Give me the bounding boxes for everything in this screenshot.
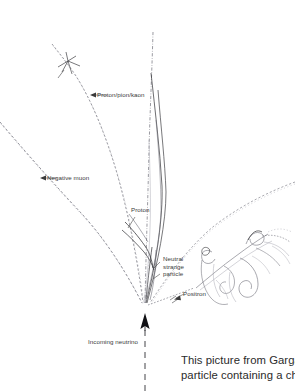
caption-line-1: This picture from Gargan — [181, 353, 295, 368]
bubble-chamber-event-figure — [0, 0, 295, 391]
caption-line-2: particle containing a cha — [181, 368, 295, 383]
label-neutral-strange-line3: particle — [163, 270, 183, 277]
label-neutral-strange-line2: strange — [163, 263, 184, 270]
label-negative-muon: Negative muon — [47, 174, 89, 182]
track-negative-muon — [0, 122, 143, 304]
label-neutral-strange-line1: Neutral — [163, 255, 183, 262]
label-proton: Proton — [131, 206, 150, 214]
label-positron: Positron — [183, 290, 206, 298]
label-neutral-strange-particle: Neutral strange particle — [163, 255, 205, 278]
incoming-neutrino-beam — [140, 313, 149, 391]
figure-caption: This picture from Gargan particle contai… — [181, 353, 295, 391]
track-upper-right-outgoing — [150, 182, 295, 304]
star-vertex-burst — [58, 52, 80, 78]
label-incoming-neutrino: Incoming neutrino — [88, 338, 138, 346]
label-proton-pion-kaon: Proton/pion/kaon — [97, 91, 145, 99]
shower-right-cluster — [196, 229, 292, 305]
